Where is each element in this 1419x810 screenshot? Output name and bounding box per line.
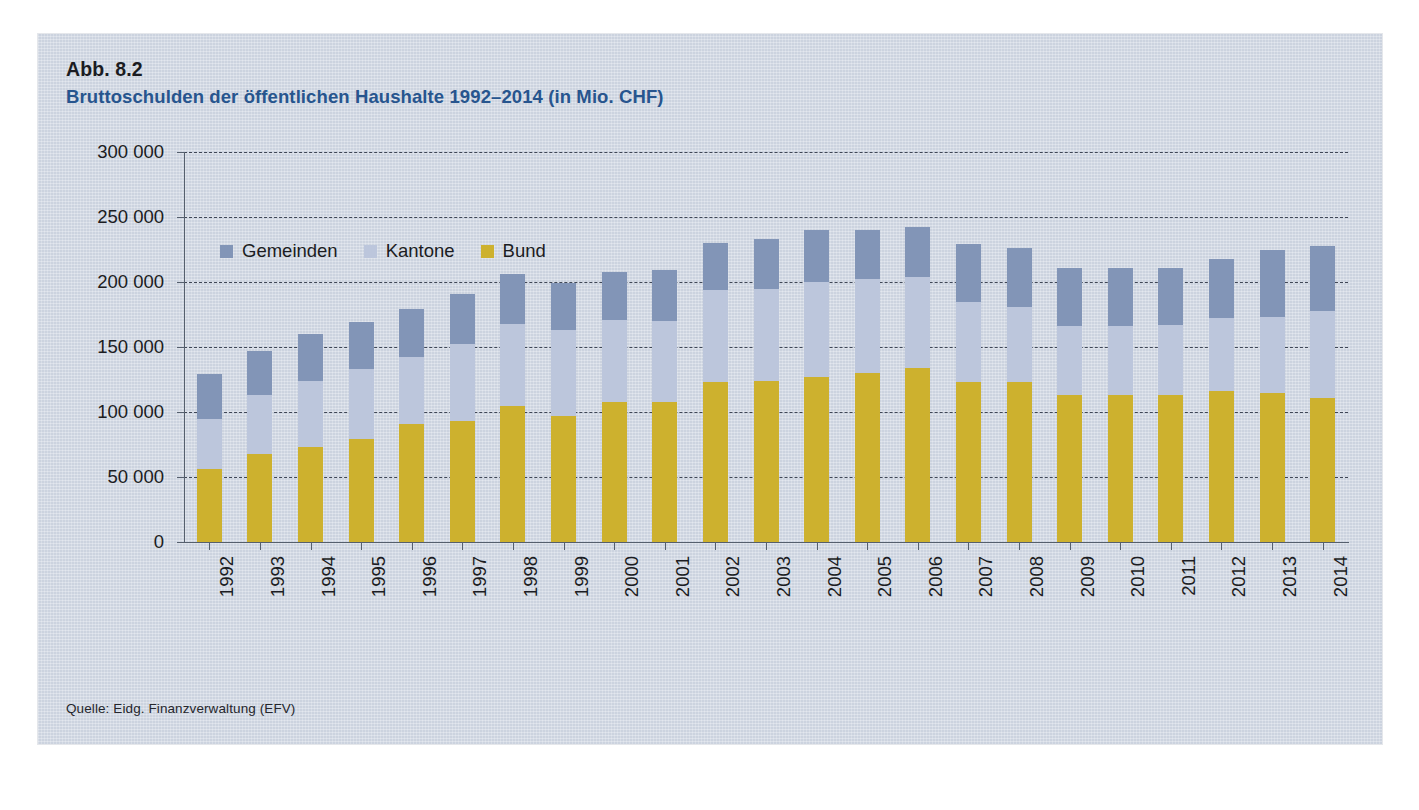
bar-segment-bund[interactable] [450, 421, 475, 542]
bar-segment-kantone[interactable] [197, 419, 222, 470]
bar-segment-kantone[interactable] [500, 324, 525, 406]
bar-group[interactable] [703, 152, 728, 542]
bar-segment-bund[interactable] [652, 402, 677, 542]
legend-item-kantone[interactable]: Kantone [364, 240, 455, 262]
bar-segment-gemeinden[interactable] [804, 230, 829, 282]
bar-segment-gemeinden[interactable] [349, 322, 374, 369]
bar-segment-gemeinden[interactable] [551, 283, 576, 330]
bar-segment-bund[interactable] [754, 381, 779, 542]
bar-segment-bund[interactable] [804, 377, 829, 542]
bar-segment-bund[interactable] [500, 406, 525, 543]
bar-segment-bund[interactable] [399, 424, 424, 542]
bar-segment-gemeinden[interactable] [1158, 268, 1183, 325]
bar-segment-gemeinden[interactable] [450, 294, 475, 345]
bar-segment-kantone[interactable] [804, 282, 829, 377]
bar-group[interactable] [855, 152, 880, 542]
bar-group[interactable] [905, 152, 930, 542]
bar-group[interactable] [1007, 152, 1032, 542]
bar-group[interactable] [1209, 152, 1234, 542]
bar-group[interactable] [1260, 152, 1285, 542]
bar-segment-kantone[interactable] [1158, 325, 1183, 395]
bar-segment-gemeinden[interactable] [500, 274, 525, 323]
bar-segment-kantone[interactable] [1108, 326, 1133, 395]
bar-segment-gemeinden[interactable] [1007, 248, 1032, 307]
bar-group[interactable] [1057, 152, 1082, 542]
bar-segment-bund[interactable] [956, 382, 981, 542]
bar-segment-kantone[interactable] [399, 357, 424, 423]
bar-segment-bund[interactable] [855, 373, 880, 542]
bar-group[interactable] [349, 152, 374, 542]
bar-segment-bund[interactable] [1108, 395, 1133, 542]
bar-segment-kantone[interactable] [551, 330, 576, 416]
bar-segment-kantone[interactable] [905, 277, 930, 368]
bar-segment-gemeinden[interactable] [1108, 268, 1133, 327]
bar-segment-bund[interactable] [247, 454, 272, 542]
bar-segment-bund[interactable] [551, 416, 576, 542]
bar-segment-gemeinden[interactable] [197, 374, 222, 418]
bar-group[interactable] [652, 152, 677, 542]
bar-segment-gemeinden[interactable] [754, 239, 779, 288]
x-axis-tick-label: 2011 [1178, 556, 1200, 596]
bar-segment-kantone[interactable] [703, 290, 728, 382]
bar-group[interactable] [754, 152, 779, 542]
bar-segment-kantone[interactable] [602, 320, 627, 402]
bar-segment-kantone[interactable] [855, 279, 880, 373]
bar-segment-bund[interactable] [1057, 395, 1082, 542]
bar-segment-kantone[interactable] [1209, 318, 1234, 391]
bar-segment-bund[interactable] [1260, 393, 1285, 543]
bar-segment-gemeinden[interactable] [1260, 250, 1285, 318]
bar-segment-bund[interactable] [298, 447, 323, 542]
bar-segment-kantone[interactable] [1310, 311, 1335, 398]
bar-segment-bund[interactable] [1209, 391, 1234, 542]
bar-segment-bund[interactable] [1158, 395, 1183, 542]
bar-segment-gemeinden[interactable] [652, 270, 677, 321]
bar-segment-kantone[interactable] [754, 289, 779, 381]
bar-segment-bund[interactable] [349, 439, 374, 542]
x-axis-tick-label: 2014 [1330, 556, 1352, 597]
bar-segment-bund[interactable] [1007, 382, 1032, 542]
bar-segment-gemeinden[interactable] [1057, 268, 1082, 327]
bar-segment-kantone[interactable] [450, 344, 475, 421]
bar-segment-kantone[interactable] [349, 369, 374, 439]
legend-item-gemeinden[interactable]: Gemeinden [220, 240, 338, 262]
bar-segment-gemeinden[interactable] [956, 244, 981, 301]
bar-group[interactable] [602, 152, 627, 542]
x-axis-tick-label: 1996 [419, 556, 441, 597]
bar-group[interactable] [551, 152, 576, 542]
bar-segment-bund[interactable] [602, 402, 627, 542]
bar-segment-bund[interactable] [905, 368, 930, 542]
bar-segment-gemeinden[interactable] [298, 334, 323, 381]
bar-segment-kantone[interactable] [1057, 326, 1082, 395]
bar-segment-kantone[interactable] [298, 381, 323, 447]
bar-segment-gemeinden[interactable] [1310, 246, 1335, 311]
source-note: Quelle: Eidg. Finanzverwaltung (EFV) [66, 701, 295, 716]
legend-swatch-icon [364, 245, 377, 258]
bar-group[interactable] [450, 152, 475, 542]
bar-group[interactable] [197, 152, 222, 542]
bar-group[interactable] [500, 152, 525, 542]
bar-group[interactable] [298, 152, 323, 542]
bar-segment-kantone[interactable] [247, 395, 272, 454]
bar-segment-kantone[interactable] [1007, 307, 1032, 382]
bar-segment-gemeinden[interactable] [703, 243, 728, 290]
bar-segment-bund[interactable] [703, 382, 728, 542]
legend-item-bund[interactable]: Bund [481, 240, 546, 262]
bar-segment-gemeinden[interactable] [855, 230, 880, 279]
bar-group[interactable] [956, 152, 981, 542]
bar-group[interactable] [1108, 152, 1133, 542]
bar-group[interactable] [804, 152, 829, 542]
bar-segment-gemeinden[interactable] [905, 227, 930, 276]
bar-segment-kantone[interactable] [956, 302, 981, 383]
bar-segment-bund[interactable] [197, 469, 222, 542]
bar-segment-kantone[interactable] [652, 321, 677, 402]
bar-group[interactable] [1158, 152, 1183, 542]
bar-segment-bund[interactable] [1310, 398, 1335, 542]
bar-segment-gemeinden[interactable] [1209, 259, 1234, 319]
bar-segment-gemeinden[interactable] [247, 351, 272, 395]
bar-segment-gemeinden[interactable] [399, 309, 424, 357]
bar-group[interactable] [247, 152, 272, 542]
bar-segment-kantone[interactable] [1260, 317, 1285, 392]
bar-group[interactable] [1310, 152, 1335, 542]
bar-group[interactable] [399, 152, 424, 542]
bar-segment-gemeinden[interactable] [602, 272, 627, 320]
